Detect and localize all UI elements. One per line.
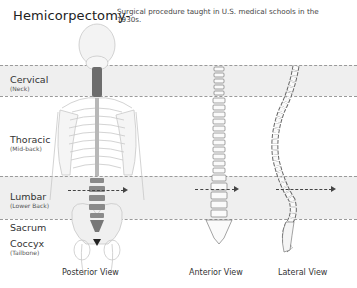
lateral-spine-illustration	[0, 0, 357, 288]
view-label-lateral: Lateral View	[278, 268, 327, 277]
view-label-posterior: Posterior View	[62, 268, 119, 277]
posterior-level-arrow	[68, 190, 124, 191]
view-label-anterior: Anterior View	[189, 268, 243, 277]
anterior-level-arrow	[195, 189, 235, 190]
lateral-level-arrow	[276, 189, 332, 190]
